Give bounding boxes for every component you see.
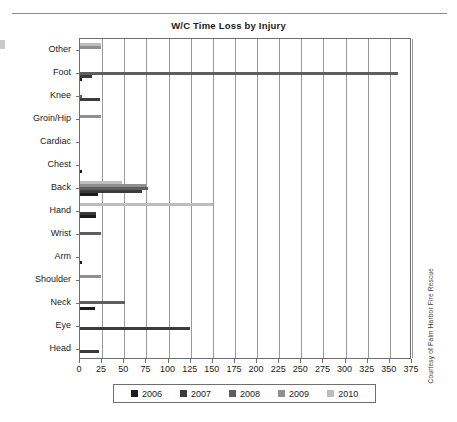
- x-axis-tick-label: 325: [359, 364, 374, 374]
- x-axis: 0255075100125150175200225250275300325350…: [79, 359, 411, 379]
- x-axis-tick-label: 175: [226, 364, 241, 374]
- legend-item[interactable]: 2008: [229, 389, 260, 399]
- bar: [80, 72, 398, 75]
- bar: [80, 115, 101, 118]
- bar: [80, 46, 101, 49]
- bar: [80, 261, 82, 264]
- bar: [80, 301, 125, 304]
- legend-label: 2006: [142, 389, 162, 399]
- bar-group: [80, 291, 410, 314]
- bar: [80, 350, 99, 353]
- x-axis-tick-label: 350: [381, 364, 396, 374]
- bar-group: [80, 314, 410, 337]
- x-axis-tick: [345, 359, 346, 363]
- bar: [80, 78, 82, 81]
- x-axis-tick: [389, 359, 390, 363]
- bar: [80, 170, 82, 173]
- legend-swatch-icon: [131, 390, 138, 397]
- y-axis-tick: [76, 211, 80, 212]
- bar-group: [80, 154, 410, 177]
- x-axis-tick-label: 125: [182, 364, 197, 374]
- bar-group: [80, 177, 410, 200]
- x-axis-tick-label: 225: [271, 364, 286, 374]
- x-axis-tick: [190, 359, 191, 363]
- bar-group: [80, 131, 410, 154]
- legend-swatch-icon: [278, 390, 285, 397]
- y-axis-tick-label: Knee: [50, 90, 71, 100]
- chart-title: W/C Time Loss by Injury: [0, 20, 457, 31]
- x-axis-tick: [168, 359, 169, 363]
- bar: [80, 215, 96, 218]
- x-axis-tick-label: 25: [96, 364, 106, 374]
- bar-group: [80, 200, 410, 223]
- x-axis-tick: [101, 359, 102, 363]
- y-axis-tick-label: Hand: [49, 205, 71, 215]
- legend-swatch-icon: [180, 390, 187, 397]
- y-axis-tick: [76, 50, 80, 51]
- y-axis-tick: [76, 119, 80, 120]
- y-axis-tick: [76, 280, 80, 281]
- y-axis-tick-label: Arm: [55, 251, 72, 261]
- legend-swatch-icon: [327, 390, 334, 397]
- y-axis-tick: [76, 257, 80, 258]
- x-axis-tick-label: 200: [249, 364, 264, 374]
- legend-item[interactable]: 2006: [131, 389, 162, 399]
- bar-group: [80, 245, 410, 268]
- x-axis-tick-label: 0: [76, 364, 81, 374]
- x-axis-tick: [322, 359, 323, 363]
- x-axis-tick-label: 75: [140, 364, 150, 374]
- bar-group: [80, 268, 410, 291]
- x-axis-tick-label: 150: [204, 364, 219, 374]
- legend-item[interactable]: 2009: [278, 389, 309, 399]
- page-divider-rule: [12, 13, 447, 14]
- x-axis-tick: [411, 359, 412, 363]
- y-axis-tick: [76, 96, 80, 97]
- plot-area: [79, 38, 411, 359]
- bar-group: [80, 39, 410, 62]
- bar-group: [80, 222, 410, 245]
- y-axis-tick-label: Chest: [47, 159, 71, 169]
- y-axis-tick: [76, 188, 80, 189]
- bar: [80, 98, 100, 101]
- y-axis-tick: [76, 303, 80, 304]
- bar: [80, 275, 101, 278]
- bar-rows: [80, 39, 410, 358]
- legend-item[interactable]: 2010: [327, 389, 358, 399]
- x-axis-tick-label: 100: [160, 364, 175, 374]
- y-axis-tick: [76, 349, 80, 350]
- x-axis-tick: [212, 359, 213, 363]
- x-axis-tick-label: 50: [118, 364, 128, 374]
- y-axis-tick-label: Neck: [50, 297, 71, 307]
- x-axis-tick: [300, 359, 301, 363]
- bar: [80, 232, 101, 235]
- chart-figure: W/C Time Loss by Injury OtherFootKneeGro…: [0, 0, 457, 422]
- x-axis-tick: [79, 359, 80, 363]
- y-axis-tick: [76, 234, 80, 235]
- legend-swatch-icon: [229, 390, 236, 397]
- y-axis-labels: OtherFootKneeGroin/HipCardiacChestBackHa…: [0, 38, 75, 359]
- credit-text: Courtesy of Palm Harbor Fire Rescue: [427, 268, 434, 383]
- y-axis-tick: [76, 73, 80, 74]
- y-axis-tick-label: Groin/Hip: [33, 113, 71, 123]
- y-axis-tick: [76, 165, 80, 166]
- bar-group: [80, 337, 410, 360]
- y-axis-tick-label: Back: [51, 182, 71, 192]
- y-axis-tick-label: Foot: [53, 67, 71, 77]
- y-axis-tick-label: Eye: [55, 320, 71, 330]
- bar-group: [80, 85, 410, 108]
- legend-label: 2008: [240, 389, 260, 399]
- bar: [80, 327, 190, 330]
- x-axis-tick: [367, 359, 368, 363]
- y-axis-tick-label: Wrist: [51, 228, 71, 238]
- legend-label: 2010: [338, 389, 358, 399]
- y-axis-tick: [76, 326, 80, 327]
- x-axis-tick: [234, 359, 235, 363]
- y-axis-tick: [76, 142, 80, 143]
- x-axis-tick-label: 275: [315, 364, 330, 374]
- x-axis-tick-label: 300: [337, 364, 352, 374]
- x-axis-tick: [123, 359, 124, 363]
- y-axis-tick-label: Head: [49, 343, 71, 353]
- legend-item[interactable]: 2007: [180, 389, 211, 399]
- y-axis-tick-label: Shoulder: [35, 274, 71, 284]
- bar: [80, 193, 98, 196]
